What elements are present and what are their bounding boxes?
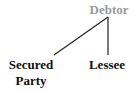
node-lessee: Lessee [84,58,130,72]
node-lessee-label: Lessee [89,57,125,72]
edge-debtor-secured-party [54,17,108,55]
node-secured-party: Secured Party [2,58,60,88]
node-secured-party-label-line1: Secured [2,58,60,72]
node-secured-party-label-line2: Party [2,74,60,88]
node-debtor-label: Debtor [90,2,129,17]
node-debtor: Debtor [86,3,132,17]
